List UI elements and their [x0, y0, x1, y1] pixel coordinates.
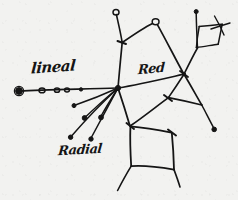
cell-left-edge — [130, 126, 131, 166]
hub-to-upper-bend-stroke — [118, 43, 122, 89]
right-hub-to-stub-stroke — [184, 48, 198, 74]
bend-to-peak-stroke — [122, 23, 152, 42]
mid-to-cell-stroke — [130, 98, 168, 126]
central-hub-node — [115, 85, 120, 90]
cell-top-edge — [130, 126, 171, 132]
right-hub-to-lower-right-stroke — [184, 74, 202, 105]
radial-spoke-1-terminal — [68, 135, 72, 139]
mid-to-lower-right-stroke — [168, 98, 201, 105]
label-radial: Radial — [57, 142, 102, 157]
hub-to-right-hub-stroke — [118, 74, 184, 88]
radial-spoke-1 — [72, 88, 118, 136]
lineal-terminal-node — [16, 88, 23, 95]
cell-right-edge — [172, 133, 174, 170]
cell-bottom-edge — [131, 166, 174, 170]
label-red: Red — [138, 61, 165, 76]
upper-bend-to-terminal-stroke — [116, 15, 122, 43]
radial-spoke-4-terminal — [99, 115, 104, 120]
cell-tail-right-stroke — [174, 170, 180, 187]
label-lineal: lineal — [31, 58, 76, 76]
lower-right-tail-stroke — [202, 105, 214, 128]
radial-spoke-3-terminal — [82, 116, 87, 121]
radial-spoke-3 — [86, 88, 118, 117]
lineal-node-4 — [79, 88, 82, 91]
upper-stub-terminal-node — [194, 10, 198, 14]
peak-node — [152, 19, 159, 25]
quad-bottom-edge — [196, 44, 218, 47]
hub-to-cell-stroke — [118, 88, 130, 126]
cell-tail-left-stroke — [118, 166, 132, 190]
radial-spoke-5-terminal — [72, 104, 76, 108]
ink-drawing — [0, 0, 238, 200]
lower-right-terminal-node — [212, 127, 217, 132]
sketch-canvas: lineal Red Radial — [0, 0, 238, 200]
